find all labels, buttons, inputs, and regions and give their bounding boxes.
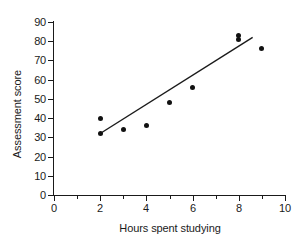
data-point: [167, 100, 172, 105]
data-point: [190, 85, 195, 90]
data-point: [121, 127, 126, 132]
data-point: [98, 116, 103, 121]
x-axis-title: Hours spent studying: [54, 222, 286, 234]
data-point: [259, 46, 264, 51]
data-point: [236, 37, 241, 42]
data-point: [98, 131, 103, 136]
scatter-plot-figure: 0102030405060708090 0246810 Hours spent …: [0, 0, 304, 247]
y-axis-title: Assessment score: [11, 34, 23, 194]
data-point: [144, 123, 149, 128]
plot-area: [54, 22, 285, 195]
